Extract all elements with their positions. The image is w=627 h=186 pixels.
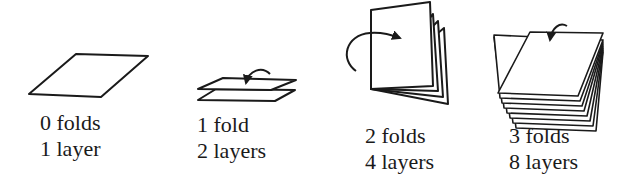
stage-2-caption: 2 folds 4 layers: [365, 123, 434, 175]
stage-2-layers: 4 layers: [365, 149, 434, 175]
stage-1-caption: 1 fold 2 layers: [197, 112, 266, 164]
single-sheet-icon: [29, 54, 148, 97]
stage-0-caption: 0 folds 1 layer: [40, 110, 101, 162]
stage-1-folds: 1 fold: [197, 112, 266, 138]
stage-3-folds: 3 folds: [509, 123, 578, 149]
stage-0-folds: 0 folds: [40, 110, 101, 136]
folded-once-sheet-icon: [198, 70, 296, 101]
stage-3-layers: 8 layers: [509, 149, 578, 175]
folded-thrice-stack-icon: [494, 25, 603, 131]
stage-3-caption: 3 folds 8 layers: [509, 123, 578, 175]
stage-1-layers: 2 layers: [197, 138, 266, 164]
stage-2-folds: 2 folds: [365, 123, 434, 149]
folded-twice-booklet-icon: [347, 2, 448, 104]
stage-0-layers: 1 layer: [40, 136, 101, 162]
